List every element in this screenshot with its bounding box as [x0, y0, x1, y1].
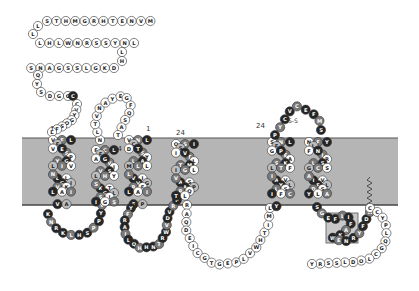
c-term-residue-letter: P	[384, 222, 388, 228]
icl3-residue-letter: E	[188, 235, 192, 241]
n-term-residue-letter: S	[39, 89, 43, 95]
tm1-residue-letter: A	[64, 201, 68, 207]
ecl2-residue-letter: F	[129, 102, 133, 108]
n-term-residue-letter: N	[129, 18, 133, 24]
icl3-residue-letter: I	[267, 222, 269, 228]
n-term-residue-letter: N	[38, 65, 42, 71]
tm3-residue-letter: T	[136, 146, 140, 152]
n-term-residue-letter: S	[66, 65, 70, 71]
icl3-residue-letter: D	[184, 227, 189, 233]
ecl2-residue-letter: G	[125, 95, 129, 101]
n-term-residue-letter: H	[101, 18, 105, 24]
tm5-residue-letter: F	[288, 165, 292, 171]
tm1-residue-letter: V	[55, 201, 59, 207]
tm1-residue-letter: I	[61, 163, 63, 169]
helix8-residue-letter: E	[337, 237, 341, 243]
ecl2-residue-letter: Q	[127, 110, 132, 116]
helix8-residue-letter: D	[364, 216, 369, 222]
snake-plot-diagram: STHMGRHTENVMLLLHLWNRSSYNLLHDKGLSSGANSQYS…	[0, 0, 419, 291]
c-term-residue-letter: S	[327, 260, 331, 266]
helix8-residue-letter: A	[344, 227, 348, 233]
membrane-band	[22, 138, 398, 205]
ecl3-residue-letter: Y	[277, 124, 282, 130]
n-term-residue-letter: S	[95, 40, 99, 46]
tm3-residue-letter: P	[141, 201, 145, 207]
helix8-residue-letter: R	[351, 235, 355, 241]
tm1-residue-letter: V	[69, 163, 73, 169]
tm6-residue-letter: C	[316, 165, 320, 171]
c-term-residue-letter: D	[351, 259, 356, 265]
n-term-residue-letter: W	[65, 40, 71, 46]
n-term-residue-letter: D	[48, 93, 53, 99]
n-term-residue-letter: S	[75, 65, 79, 71]
tm5-end-label: 24	[256, 122, 265, 130]
n-term-residue-letter: G	[82, 18, 86, 24]
tm5-residue-letter: P	[279, 148, 283, 154]
c-term-residue-letter: C	[374, 251, 378, 257]
ecl3-residue-letter: M	[317, 118, 322, 124]
tm6-residue-letter: Y	[306, 191, 311, 197]
n-term-residue-letter: E	[120, 18, 124, 24]
n-term-residue-letter: M	[73, 18, 78, 24]
helix8-residue-letter: N	[344, 238, 348, 244]
c-term-residue-letter: Y	[380, 215, 385, 221]
ecl3-residue-letter: P	[273, 132, 277, 138]
n-term-residue-letter: Q	[36, 72, 41, 78]
icl3-residue-letter: I	[192, 243, 194, 249]
n-term-residue-letter: A	[48, 65, 52, 71]
n-term-residue-letter: T	[55, 18, 59, 24]
tm6-residue-letter: Y	[324, 139, 329, 145]
c-term-residue-letter: G	[380, 245, 384, 251]
helix8-residue-letter: F	[334, 216, 338, 222]
tm6-residue-letter: N	[316, 148, 320, 154]
c-term-residue-letter: O	[359, 258, 364, 264]
n-term-residue-letter: N	[122, 40, 126, 46]
icl3-residue-letter: M	[266, 213, 271, 219]
tm3-residue-letter: M	[126, 163, 131, 169]
tm1-residue-letter: V	[51, 146, 55, 152]
icl3-residue-letter: G	[202, 255, 206, 261]
icl2-residue-letter: H	[137, 245, 141, 251]
icl3-residue-letter: R	[185, 202, 189, 208]
icl3-residue-letter: T	[263, 230, 267, 236]
n-term-residue-letter: R	[85, 40, 89, 46]
ecl3-residue-letter: C	[295, 103, 299, 109]
tm1-residue-letter: A	[60, 189, 64, 195]
c-term-residue-letter: Y	[309, 261, 314, 267]
tm3-residue-letter: I	[146, 189, 148, 195]
helix8-residue-letter: F	[361, 223, 365, 229]
n-term-residue-letter: D	[112, 65, 117, 71]
icl1-residue-letter: H	[77, 232, 81, 238]
disulfide-label: S-S	[288, 117, 298, 124]
ecl3-residue-letter: F	[312, 111, 316, 117]
tm6-residue-letter: G	[307, 165, 311, 171]
tm2-residue-letter: S	[112, 199, 116, 205]
icl3-residue-letter: A	[185, 211, 189, 217]
ecl2-residue-letter: N	[97, 105, 101, 111]
tm6-residue-letter: F	[307, 148, 311, 154]
helix8-residue-letter: G	[320, 210, 324, 216]
icl1-residue-letter: P	[92, 225, 96, 231]
tm2-residue-letter: G	[103, 199, 107, 205]
tm3-residue-letter: D	[127, 146, 132, 152]
tm2-residue-letter: H	[103, 173, 107, 179]
ecl3-residue-letter: S	[319, 127, 323, 133]
tm5-residue-letter: F	[279, 191, 283, 197]
c-term-residue-letter: R	[318, 261, 322, 267]
n-term-residue-letter: S	[45, 18, 49, 24]
tm5-residue-letter: C	[288, 191, 292, 197]
helix8-residue-letter: Y	[356, 230, 361, 236]
n-term-residue-letter: Y	[34, 81, 39, 87]
icl3-residue-letter: V	[248, 250, 252, 256]
tm4-residue-letter: I	[175, 167, 177, 173]
icl3-residue-letter: Q	[184, 219, 189, 225]
c-term-residue-letter: S	[335, 260, 339, 266]
icl3-residue-letter: P	[234, 259, 238, 265]
tm5-residue-letter: T	[279, 165, 283, 171]
tm5-residue-letter: I	[271, 191, 273, 197]
n-term-residue-letter: G	[57, 65, 61, 71]
tm4-residue-letter: V	[174, 175, 178, 181]
tm3-start-label: 1	[146, 125, 150, 133]
tm2-residue-letter: G	[103, 156, 107, 162]
tm5-residue-letter: Y	[274, 203, 279, 209]
